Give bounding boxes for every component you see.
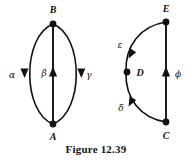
phi-edge-label: ϕ xyxy=(175,69,181,79)
phi-edge-arrowhead xyxy=(162,67,170,77)
gamma-edge-path xyxy=(53,24,76,124)
vertex-b-label: B xyxy=(49,4,57,15)
vertex-b-dot xyxy=(50,21,57,28)
epsilon-edge-path xyxy=(126,22,166,72)
vertex-e-label: E xyxy=(162,3,170,14)
beta-edge-label: β xyxy=(40,68,46,78)
figure-diagram: α β γ B A δ ε xyxy=(0,0,192,164)
vertex-e-dot xyxy=(163,19,170,26)
vertex-a-dot xyxy=(50,121,57,128)
epsilon-edge-label: ε xyxy=(118,40,123,50)
delta-edge-path xyxy=(126,72,166,122)
left-graph: α β γ B A xyxy=(9,4,92,142)
vertex-a-label: A xyxy=(49,131,57,142)
delta-edge-label: δ xyxy=(118,103,123,113)
figure-caption: Figure 12.39 xyxy=(0,143,192,155)
figure-container: α β γ B A δ ε xyxy=(0,0,192,164)
vertex-d-label: D xyxy=(135,67,143,78)
beta-edge-arrowhead xyxy=(49,67,57,77)
vertex-d-dot xyxy=(124,69,131,76)
right-graph: δ ε ϕ E D C xyxy=(118,3,181,141)
gamma-edge-label: γ xyxy=(86,70,92,80)
alpha-edge-label: α xyxy=(9,70,15,80)
alpha-edge-arrowhead xyxy=(20,69,28,79)
gamma-edge-arrowhead xyxy=(77,69,85,79)
vertex-c-label: C xyxy=(163,130,170,141)
vertex-c-dot xyxy=(163,119,170,126)
epsilon-edge-arrowhead xyxy=(129,48,137,59)
